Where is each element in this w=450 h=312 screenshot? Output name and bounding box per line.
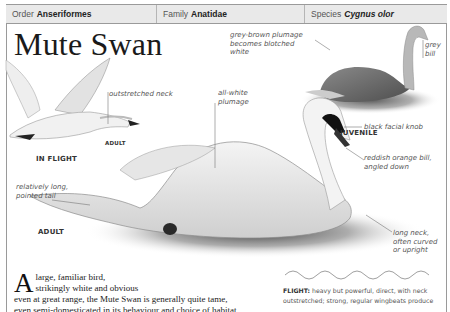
wave-divider [285,271,429,279]
annotation-pointed-tail: relatively long, pointed tail [16,183,71,200]
annotation-juvenile-plumage: grey-brown plumage becomes blotched whit… [230,31,315,57]
annotation-grey-bill: grey bill [425,41,445,58]
description-text: A large, familiar bird, strikingly white… [14,272,239,312]
flight-age-label: ADULT [105,140,126,146]
flying-swan-illustration [6,58,140,140]
description-line-1: large, familiar bird, [36,272,106,282]
annotation-outstretched-neck: outstretched neck [109,90,173,99]
adult-caption: ADULT [38,228,64,236]
description-line-2: strikingly white and obvious [36,283,139,293]
annotation-bill: reddish orange bill, angled down [364,154,436,171]
flight-info: FLIGHT: heavy but powerful, direct, with… [283,286,441,305]
annotation-long-neck: long neck, often curved or upright [393,229,443,255]
description-rest: even at great range, the Mute Swan is ge… [14,294,239,312]
annotation-all-white-plumage: all-white plumage [218,89,258,106]
flight-caption: IN FLIGHT [36,155,77,163]
drop-cap: A [14,273,34,294]
annotation-black-facial-knob: black facial knob [364,123,423,132]
flight-info-label: FLIGHT: [283,287,310,294]
